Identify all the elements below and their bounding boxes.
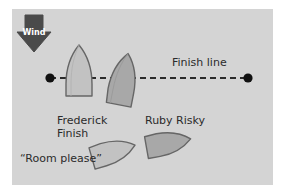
boat-hull-icon-ruby-upper: [105, 51, 140, 107]
wind-label: Wind: [19, 28, 49, 37]
boat-label-frederick-finish: FrederickFinish: [57, 114, 107, 140]
finish-mark-dot-icon-right: [243, 73, 252, 82]
finish-line-label: Finish line: [172, 57, 227, 69]
hail-room-please-label: “Room please”: [20, 153, 102, 165]
boat-hull-icon-frederick-upper: [66, 45, 92, 96]
frederick-label-line1: Frederick: [57, 114, 107, 127]
boat-hull-icon-ruby-lower: [144, 128, 192, 158]
diagram-scene: Wind Finish line FrederickFinish Ruby Ri…: [0, 0, 285, 195]
finish-mark-dot-icon-left: [45, 73, 54, 82]
boat-label-ruby-risky: Ruby Risky: [145, 115, 205, 127]
frederick-label-line2: Finish: [57, 127, 88, 140]
